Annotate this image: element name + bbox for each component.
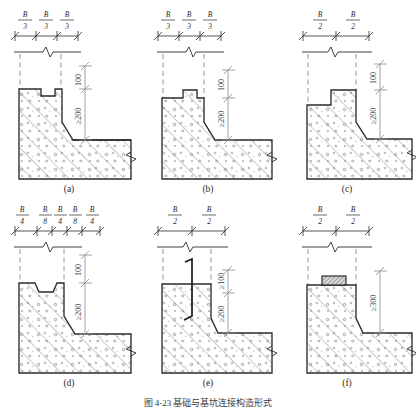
dim-value-100: 100 (74, 74, 83, 86)
frac-numerator: B (351, 10, 356, 19)
frac-numerator: B (208, 10, 213, 19)
frac-denominator: 2 (351, 217, 355, 226)
frac-numerator: B (166, 10, 171, 19)
dim-value-100: 100 (217, 79, 226, 91)
frac-denominator: 3 (64, 22, 69, 31)
frac-numerator: B (65, 10, 70, 19)
frac-numerator: B (318, 205, 323, 214)
dim-value-min100: ≥100 (217, 273, 226, 289)
dim-value-min200: ≥200 (217, 306, 226, 322)
frac-numerator: B (44, 10, 49, 19)
panel-label-e: (e) (203, 378, 214, 389)
frac-numerator: B (20, 205, 25, 214)
panel-f-embedded-plate (322, 276, 346, 285)
frac-denominator: 8 (73, 217, 77, 226)
panel-label-a: (a) (64, 184, 75, 195)
dim-value-min300: ≥300 (369, 295, 378, 311)
dim-value-100: 100 (74, 264, 83, 276)
frac-numerator: B (43, 205, 48, 214)
frac-denominator: 4 (90, 217, 94, 226)
frac-numerator: B (23, 10, 28, 19)
frac-denominator: 3 (22, 22, 27, 31)
panel-label-d: (d) (63, 378, 74, 389)
frac-denominator: 2 (351, 22, 355, 31)
frac-denominator: 2 (207, 217, 211, 226)
frac-numerator: B (351, 205, 356, 214)
panel-label-b: (b) (202, 184, 213, 195)
frac-denominator: 3 (207, 22, 212, 31)
frac-denominator: 3 (165, 22, 170, 31)
frac-denominator: 3 (43, 22, 48, 31)
frac-numerator: B (173, 205, 178, 214)
frac-numerator: B (207, 205, 212, 214)
dim-value-min200: ≥200 (74, 304, 83, 320)
frac-denominator: 2 (318, 217, 322, 226)
frac-denominator: 4 (20, 217, 24, 226)
figure-caption: 图 4-23 基础与基坑连接构造形式 (0, 396, 416, 409)
frac-numerator: B (73, 205, 78, 214)
frac-numerator: B (318, 10, 323, 19)
dim-value-min200: ≥200 (369, 108, 378, 124)
foundation-detail-figure: B 3 B 3 B 3 (0, 0, 416, 409)
dim-value-min200: ≥200 (217, 111, 226, 127)
frac-denominator: 2 (318, 22, 322, 31)
frac-numerator: B (90, 205, 95, 214)
frac-denominator: 4 (58, 217, 62, 226)
frac-numerator: B (58, 205, 63, 214)
frac-denominator: 8 (43, 217, 47, 226)
dim-value-min200: ≥200 (74, 108, 83, 124)
panel-label-c: (c) (342, 184, 353, 195)
frac-denominator: 3 (186, 22, 191, 31)
frac-numerator: B (187, 10, 192, 19)
dim-value-100: 100 (369, 72, 378, 84)
frac-denominator: 2 (173, 217, 177, 226)
panel-label-f: (f) (342, 378, 352, 389)
